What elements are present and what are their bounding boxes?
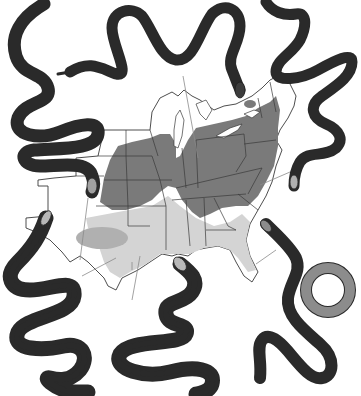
snake-top-center-dark [58,8,245,98]
snake-head [235,82,245,98]
illustration-svg [0,0,361,396]
range-patch-ny [244,100,256,108]
snake-top-left-striped [14,4,98,194]
snake-head [87,178,97,194]
snake-head [290,175,298,189]
snake-bottom-right-coiled [258,218,350,378]
snake-coil-fill [306,268,350,312]
snake-range-illustration [0,0,361,396]
snake-bottom-center-blotched [119,255,213,394]
us-map [26,74,296,300]
